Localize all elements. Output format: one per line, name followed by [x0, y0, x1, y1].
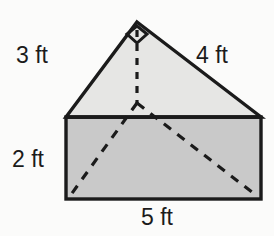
dimension-label-right-leg: 4 ft	[196, 44, 228, 67]
rectangle-face	[66, 117, 261, 199]
dimension-label-height: 2 ft	[12, 148, 44, 171]
dimension-label-left-leg: 3 ft	[16, 44, 48, 67]
prism-drawing	[0, 0, 274, 236]
dimension-label-base: 5 ft	[141, 206, 173, 229]
geometry-figure: 3 ft 4 ft 2 ft 5 ft	[0, 0, 274, 236]
triangle-face	[66, 22, 261, 117]
